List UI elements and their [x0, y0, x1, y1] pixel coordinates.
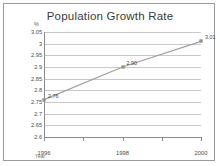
- data-point-label: 3.01: [205, 34, 216, 40]
- y-axis-tick-label: 2.85: [31, 76, 42, 82]
- data-point-label: 2.90: [127, 60, 138, 66]
- y-axis-tick-label: 2.8: [34, 87, 42, 93]
- line-path-svg: [44, 32, 201, 137]
- y-axis-tick-label: 2.6: [34, 134, 42, 140]
- x-axis-tick: [123, 137, 124, 141]
- x-axis-tick-label: 2000: [195, 150, 208, 156]
- x-axis-tick: [44, 137, 45, 141]
- x-axis-tick: [162, 137, 163, 141]
- y-axis-tick-label: 3.05: [31, 29, 42, 35]
- data-line: [44, 41, 201, 99]
- x-axis-tick: [201, 137, 202, 141]
- y-axis-unit-label: %: [34, 21, 39, 27]
- y-axis-tick-label: 2.65: [31, 122, 42, 128]
- y-axis-tick-label: 2.75: [31, 99, 42, 105]
- x-axis-title: Year: [35, 153, 45, 159]
- data-point-marker: [200, 40, 203, 43]
- y-axis-tick-label: 2.9: [34, 64, 42, 70]
- data-series-line: 2.762.903.01: [44, 32, 201, 137]
- x-axis-tick: [83, 137, 84, 141]
- y-axis-tick-labels: 3.0532.952.92.852.82.752.72.652.6: [12, 32, 42, 137]
- data-point-marker: [121, 66, 124, 69]
- y-axis-tick-label: 2.95: [31, 52, 42, 58]
- data-point-marker: [43, 98, 46, 101]
- y-axis-tick-label: 3: [39, 41, 42, 47]
- chart-frame: Population Growth Rate % 3.0532.952.92.8…: [3, 3, 215, 161]
- y-axis-tick-label: 2.7: [34, 111, 42, 117]
- x-axis-tick-label: 1998: [116, 150, 129, 156]
- data-point-label: 2.76: [48, 93, 59, 99]
